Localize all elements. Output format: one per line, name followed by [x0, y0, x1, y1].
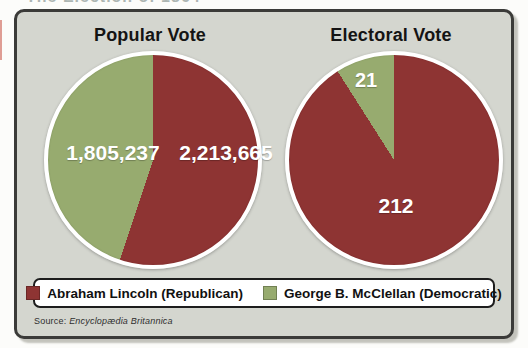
scan-artifact-mark	[0, 20, 2, 60]
popular-vote-title: Popular Vote	[45, 25, 255, 46]
legend-item-mcclellan: George B. McClellan (Democratic)	[263, 286, 502, 301]
popular-lincoln-value: 2,213,665	[179, 141, 272, 165]
electoral-vote-pie-chart	[285, 51, 503, 269]
legend-label-mcclellan: George B. McClellan (Democratic)	[284, 286, 502, 301]
source-line: Source: Encyclopædia Britannica	[34, 316, 173, 326]
legend-item-lincoln: Abraham Lincoln (Republican)	[26, 286, 243, 301]
lincoln-color-swatch	[26, 286, 40, 300]
electoral-mcclellan-value: 21	[355, 69, 377, 92]
legend-label-lincoln: Abraham Lincoln (Republican)	[47, 286, 243, 301]
source-name: Encyclopædia Britannica	[69, 316, 173, 326]
popular-mcclellan-value: 1,805,237	[66, 141, 159, 165]
clipped-page-heading-text: The Election of 1864	[26, 0, 201, 4]
electoral-lincoln-value: 212	[378, 194, 413, 218]
election-chart-panel: Popular Vote Electoral Vote 1,805,237 2,…	[14, 9, 514, 339]
mcclellan-color-swatch	[263, 286, 277, 300]
legend: Abraham Lincoln (Republican) George B. M…	[33, 278, 495, 308]
electoral-vote-title: Electoral Vote	[286, 25, 496, 46]
source-prefix: Source:	[34, 316, 66, 326]
clipped-page-heading: The Election of 1864	[26, 0, 346, 4]
